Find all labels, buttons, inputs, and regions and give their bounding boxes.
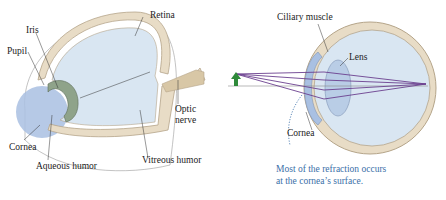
right-eye-diagram (228, 22, 436, 154)
label-pupil: Pupil (7, 46, 27, 56)
label-iris: Iris (26, 25, 39, 35)
left-eye-diagram (16, 12, 205, 171)
label-ciliary-muscle: Ciliary muscle (277, 12, 333, 22)
label-optic-nerve-2: nerve (175, 115, 196, 125)
label-vitreous-humor: Vitreous humor (142, 155, 201, 165)
label-cornea-right: Cornea (287, 128, 314, 138)
refraction-note-line1: Most of the refraction occurs (276, 164, 386, 176)
label-aqueous-humor: Aqueous humor (36, 161, 97, 171)
refraction-note-line2: at the cornea’s surface. (276, 176, 363, 188)
label-retina: Retina (150, 10, 175, 20)
label-optic-nerve-1: Optic (175, 104, 196, 114)
label-lens: Lens (349, 52, 367, 62)
label-cornea-left: Cornea (9, 142, 36, 152)
